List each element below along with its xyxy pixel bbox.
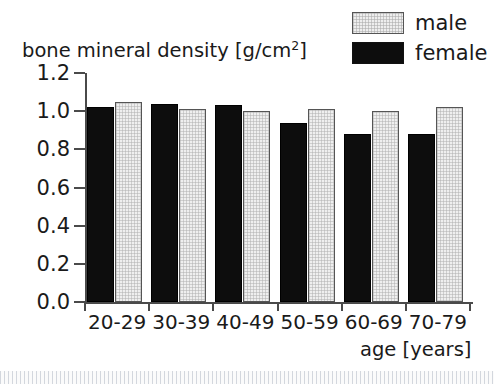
bar-female	[87, 107, 114, 302]
y-axis-tick-label: 0.4	[26, 216, 70, 237]
y-axis-title-exponent: 2	[291, 38, 299, 53]
x-axis-tick	[84, 302, 86, 311]
y-axis-tick	[74, 225, 85, 227]
bar-female	[215, 105, 242, 302]
x-axis-tick	[469, 302, 471, 311]
bar-male	[436, 107, 463, 302]
y-axis-tick-label: 0.8	[26, 139, 70, 160]
y-axis-tick-label: 1.2	[26, 63, 70, 84]
legend-item-male: male	[352, 10, 467, 36]
x-axis-tick-label: 70-79	[400, 312, 476, 332]
y-axis-tick	[74, 148, 85, 150]
y-axis-title-base: bone mineral density [g/cm	[22, 39, 291, 62]
legend-item-female: female	[352, 40, 487, 66]
bar-chart-figure: male female bone mineral density [g/cm2]…	[0, 0, 494, 384]
bar-male	[179, 109, 206, 302]
chart-legend: male female	[352, 8, 492, 70]
bar-male	[372, 111, 399, 302]
scan-artifact-strip	[0, 371, 494, 384]
bar-male	[308, 109, 335, 302]
bar-female	[151, 104, 178, 302]
legend-swatch-female-icon	[352, 42, 404, 64]
y-axis-tick-label: 0.6	[26, 178, 70, 199]
y-axis-tick	[74, 72, 85, 74]
y-axis-tick	[74, 110, 85, 112]
x-axis-tick	[341, 302, 343, 311]
y-axis-tick	[74, 263, 85, 265]
bar-female	[344, 134, 371, 302]
bar-male	[115, 102, 142, 302]
x-axis-tick	[148, 302, 150, 311]
x-axis-line	[85, 302, 473, 304]
y-axis-title: bone mineral density [g/cm2]	[22, 41, 307, 61]
x-axis-tick	[405, 302, 407, 311]
legend-swatch-male-icon	[352, 12, 404, 34]
x-axis-tick	[212, 302, 214, 311]
y-axis-tick-label: 1.0	[26, 101, 70, 122]
y-axis-tick	[74, 187, 85, 189]
x-axis-title: age [years]	[360, 340, 471, 360]
legend-label-male: male	[415, 13, 467, 34]
bar-female	[280, 123, 307, 302]
x-axis-tick	[277, 302, 279, 311]
y-axis-title-tail: ]	[299, 39, 307, 62]
y-axis-tick-label: 0.0	[26, 292, 70, 313]
bar-male	[243, 111, 270, 302]
legend-label-female: female	[415, 43, 487, 64]
y-axis-tick-label: 0.2	[26, 254, 70, 275]
bar-female	[408, 134, 435, 302]
